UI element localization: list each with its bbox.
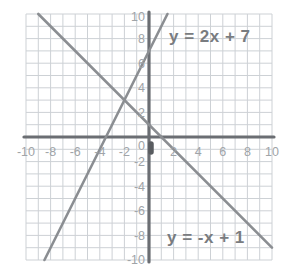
y-tick-label: 2	[138, 106, 145, 120]
graph-figure: -10-8-6-4-2246810108642-2-4-6-8-100 y = …	[0, 0, 295, 274]
x-tick-label: 8	[244, 145, 251, 159]
y-tick-label: 8	[138, 32, 145, 46]
origin-tick-label: 0	[138, 139, 145, 153]
y-tick-label: 10	[131, 10, 145, 24]
y-tick-label: -6	[134, 204, 145, 218]
equation-label-line1: y = 2x + 7	[169, 27, 251, 47]
x-tick-label: -2	[119, 145, 130, 159]
y-tick-label: 4	[138, 81, 145, 95]
x-tick-label: -10	[17, 145, 35, 159]
y-tick-label: 6	[138, 57, 145, 71]
x-tick-label: 10	[265, 145, 279, 159]
x-tick-label: 2	[170, 145, 177, 159]
x-tick-label: -6	[70, 145, 81, 159]
coordinate-plane: -10-8-6-4-2246810108642-2-4-6-8-100	[0, 0, 295, 274]
x-tick-label: 6	[219, 145, 226, 159]
x-tick-label: -4	[94, 145, 105, 159]
y-tick-label: -10	[127, 253, 145, 267]
y-tick-label: -8	[134, 229, 145, 243]
y-tick-label: -4	[134, 180, 145, 194]
x-tick-label: 4	[195, 145, 202, 159]
equation-label-line2: y = -x + 1	[167, 228, 245, 248]
x-tick-label: -8	[45, 145, 56, 159]
y-tick-label: -2	[134, 155, 145, 169]
series-line-1	[38, 14, 272, 248]
